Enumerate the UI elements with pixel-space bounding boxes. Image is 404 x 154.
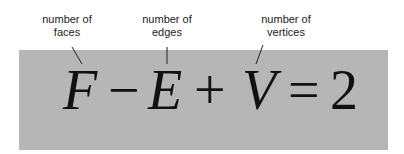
formula-v: V	[242, 62, 276, 118]
formula-rhs: 2	[330, 62, 358, 118]
formula-equals: =	[288, 62, 320, 118]
formula-f: F	[63, 62, 97, 118]
formula-e: E	[148, 62, 182, 118]
formula-minus: −	[108, 62, 140, 118]
formula-plus: +	[194, 62, 226, 118]
